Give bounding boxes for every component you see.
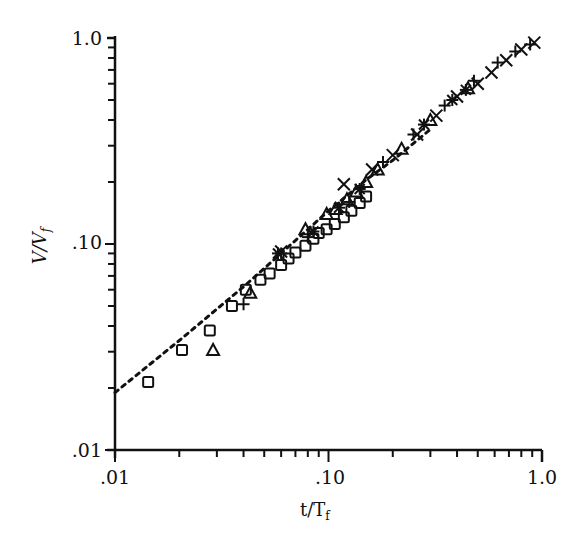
- square-marker: [290, 247, 300, 257]
- x-tick-label-1: 1.0: [527, 466, 557, 488]
- y-axis-title: V/Vf: [29, 225, 53, 264]
- chart: 1.0 .10 .01 .01 .10 1.0 t/Tf V/Vf: [0, 0, 579, 545]
- x-marker: [500, 54, 512, 66]
- plot-area: [115, 37, 540, 393]
- x-marker: [485, 67, 497, 79]
- x-marker: [515, 43, 527, 55]
- y-tick-label-0.01: .01: [72, 439, 102, 461]
- tick-marks: [105, 47, 532, 462]
- y-axis-title-sub: f: [39, 225, 53, 233]
- star-marker: [460, 84, 472, 96]
- square-marker: [276, 260, 286, 270]
- star-marker: [333, 202, 345, 214]
- square-marker: [177, 345, 187, 355]
- star-marker: [418, 119, 430, 131]
- square-marker: [205, 326, 215, 336]
- square-marker: [143, 377, 153, 387]
- square-marker: [227, 301, 237, 311]
- plus-marker: [439, 100, 451, 112]
- y-tick-label-1: 1.0: [72, 27, 102, 49]
- x-axis-title-main: t/T: [300, 499, 325, 520]
- x-tick-label-0.1: .10: [315, 466, 345, 488]
- axes: [107, 36, 542, 462]
- y-tick-label-0.1: .10: [72, 231, 102, 253]
- x-marker: [338, 178, 350, 190]
- x-axis-title: t/Tf: [300, 499, 331, 523]
- x-axis-title-sub: f: [325, 509, 331, 523]
- plus-marker: [238, 298, 250, 310]
- svg-text:V/Vf: V/Vf: [29, 225, 53, 264]
- tick-labels: 1.0 .10 .01 .01 .10 1.0: [72, 27, 557, 488]
- dashed-reference-line: [115, 129, 430, 392]
- star-marker: [446, 94, 458, 106]
- svg-text:t/Tf: t/Tf: [300, 499, 331, 523]
- triangle-marker: [207, 344, 219, 355]
- y-axis-title-main: V/V: [29, 230, 50, 264]
- x-tick-label-0.01: .01: [100, 466, 130, 488]
